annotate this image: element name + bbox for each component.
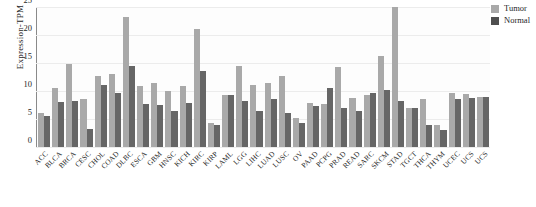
y-tick-label: 5 [28, 108, 32, 116]
bar-normal [341, 108, 347, 147]
bar-group [108, 8, 122, 147]
bar-normal [101, 85, 107, 147]
bar-normal [115, 93, 121, 147]
bar-normal [44, 116, 50, 147]
bar-normal [242, 101, 248, 147]
bar-group [448, 8, 462, 147]
bar-normal [171, 111, 177, 147]
bar-group [37, 8, 51, 147]
bar-group [405, 8, 419, 147]
bar-group [94, 8, 108, 147]
bar-normal [384, 90, 390, 147]
bar-group [193, 8, 207, 147]
x-axis-tick-labels: ACCBLCABRCACESCCHOLCOADDLBCESCAGBMHNSCKI… [37, 150, 491, 198]
bar-normal [186, 103, 192, 147]
bar-normal [455, 99, 461, 147]
bar-group [79, 8, 93, 147]
legend-label-tumor: Tumor [504, 4, 527, 13]
bar-normal [129, 66, 135, 147]
bar-normal [370, 93, 376, 147]
bar-group [278, 8, 292, 147]
bar-group [391, 8, 405, 147]
legend-swatch-normal-icon [491, 17, 499, 25]
bar-group [377, 8, 391, 147]
bar-group [65, 8, 79, 147]
bar-normal [58, 102, 64, 147]
bar-group [320, 8, 334, 147]
bar-group [164, 8, 178, 147]
bar-normal [356, 111, 362, 147]
bar-group [476, 8, 490, 147]
bar-normal [143, 104, 149, 147]
bar-normal [327, 88, 333, 147]
bar-normal [72, 101, 78, 147]
bar-group [249, 8, 263, 147]
bar-normal [87, 129, 93, 147]
bar-normal [440, 130, 446, 147]
expression-bar-chart-figure: Expression-TPM 0510152025 ACCBLCABRCACES… [0, 0, 536, 207]
y-tick-label: 10 [24, 80, 33, 88]
bar-group [207, 8, 221, 147]
bar-normal [157, 105, 163, 147]
bar-normal [200, 71, 206, 147]
bar-normal [426, 125, 432, 147]
bar-group [363, 8, 377, 147]
bar-group [235, 8, 249, 147]
bar-normal [285, 113, 291, 147]
bar-normal [313, 106, 319, 147]
gridline [36, 147, 490, 148]
bar-group [433, 8, 447, 147]
bar-normal [228, 95, 234, 147]
bar-group [122, 8, 136, 147]
bar-group [136, 8, 150, 147]
bar-group-container [37, 8, 490, 147]
bar-group [348, 8, 362, 147]
chart-legend: Tumor Normal [491, 4, 530, 25]
y-tick-label: 15 [24, 52, 33, 60]
bar-group [51, 8, 65, 147]
bar-group [462, 8, 476, 147]
bar-group [419, 8, 433, 147]
bar-normal [299, 123, 305, 147]
bar-group [264, 8, 278, 147]
x-tick-label: UCS [474, 150, 490, 166]
legend-item-tumor: Tumor [491, 4, 530, 13]
bar-group [221, 8, 235, 147]
bar-normal [256, 111, 262, 147]
bar-group [334, 8, 348, 147]
y-tick-label: 0 [28, 136, 32, 144]
legend-item-normal: Normal [491, 16, 530, 25]
bar-group [179, 8, 193, 147]
bar-normal [412, 108, 418, 147]
bar-group [150, 8, 164, 147]
bar-group [306, 8, 320, 147]
bar-normal [469, 98, 475, 147]
bar-normal [271, 99, 277, 147]
y-tick-label: 20 [24, 24, 33, 32]
legend-swatch-tumor-icon [491, 5, 499, 13]
bar-normal [214, 125, 220, 147]
plot-area: 0510152025 [36, 8, 490, 148]
x-tick-cell: UCS [477, 150, 491, 198]
bar-group [292, 8, 306, 147]
bar-normal [483, 97, 489, 147]
bar-normal [398, 101, 404, 147]
legend-label-normal: Normal [504, 16, 530, 25]
y-tick-label: 25 [24, 0, 33, 4]
